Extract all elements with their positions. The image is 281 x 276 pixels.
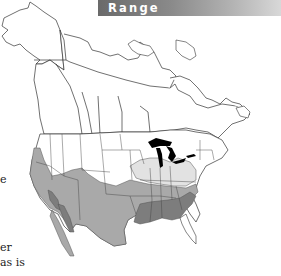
text-fragment-2: er <box>0 242 12 253</box>
text-fragment-1: e <box>0 174 7 185</box>
text-fragment-3: as is <box>0 257 25 268</box>
north-america-range-map <box>0 0 281 276</box>
